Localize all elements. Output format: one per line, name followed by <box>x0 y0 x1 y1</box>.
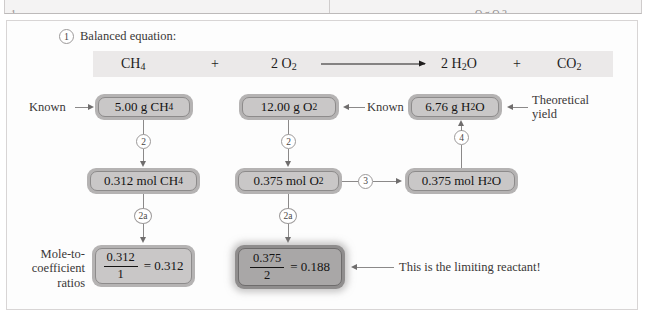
figure-root: 1 O g O 2 1 Balanced equation: CH4 + 2 O… <box>0 0 646 326</box>
connector-step4-top <box>461 126 462 131</box>
arrow-mol-h2o-to-mass-h2o <box>458 120 464 126</box>
equation-plus-1: + <box>211 56 219 72</box>
annotation-theoretical-yield: Theoretical yield <box>532 93 610 122</box>
limiting-reactant-line <box>356 267 394 268</box>
cut-off-table-strip: 1 O g O 2 <box>4 0 642 14</box>
step-1-circle: 1 <box>59 29 74 44</box>
connector-step3-left <box>342 181 359 182</box>
ratio-ch4-numerator: 0.312 <box>104 251 138 264</box>
known-middle-line <box>348 107 365 108</box>
theoretical-yield-line <box>512 107 528 108</box>
known-left-arrowhead <box>88 104 94 110</box>
step-2-circle-middle: 2 <box>281 134 296 149</box>
node-mol-h2o-inner: 0.375 mol H2O <box>408 171 515 191</box>
equation-product-co2: CO2 <box>557 56 581 73</box>
step-1-header: 1 Balanced equation: <box>59 29 176 44</box>
node-mass-ch4-inner: 5.00 g CH4 <box>98 97 190 117</box>
equation-plus-2: + <box>513 56 521 72</box>
table-column-divider <box>329 0 330 14</box>
ratio-ch4-expression: 0.312 1 = 0.312 <box>104 251 184 280</box>
node-mol-ch4: 0.312 mol CH4 <box>87 168 200 194</box>
annotation-known-left: Known <box>29 100 66 114</box>
diagram-panel: 1 Balanced equation: CH4 + 2 O2 2 H2O + … <box>6 20 638 310</box>
arrow-ch4-mass-to-mol <box>140 161 146 167</box>
ratio-o2-denominator: 2 <box>264 269 270 282</box>
ratio-o2-numerator: 0.375 <box>250 252 284 265</box>
node-mass-ch4: 5.00 g CH4 <box>95 94 193 120</box>
annotation-known-middle: Known <box>367 100 404 114</box>
arrow-step3-to-mol-h2o <box>396 178 402 184</box>
ratio-ch4-denominator: 1 <box>117 268 123 281</box>
step-1-label: Balanced equation: <box>80 29 176 44</box>
equation-product-h2o: 2 H2O <box>441 56 477 73</box>
node-ratio-ch4: 0.312 1 = 0.312 <box>92 245 195 287</box>
equation-reactant-o2: 2 O2 <box>271 56 297 73</box>
node-mol-o2: 0.375 mol O2 <box>235 168 342 194</box>
node-mol-o2-inner: 0.375 mol O2 <box>238 171 339 191</box>
known-left-line <box>75 107 89 108</box>
annotation-limiting-reactant: This is the limiting reactant! <box>399 260 541 274</box>
step-3-circle: 3 <box>358 174 373 189</box>
node-mass-o2-inner: 12.00 g O2 <box>242 97 336 117</box>
arrow-o2-mol-to-ratio <box>285 237 291 243</box>
ratio-o2-result: = 0.188 <box>290 259 330 275</box>
node-mass-o2: 12.00 g O2 <box>239 94 339 120</box>
step-2a-circle-middle: 2a <box>279 208 297 224</box>
node-ratio-o2-inner: 0.375 2 = 0.188 <box>238 248 342 286</box>
node-mol-h2o: 0.375 mol H2O <box>405 168 518 194</box>
arrow-o2-mass-to-mol <box>285 161 291 167</box>
table-cut-text-right: O g O 2 <box>475 9 507 14</box>
ratio-o2-expression: 0.375 2 = 0.188 <box>250 252 330 281</box>
node-mass-h2o-inner: 6.76 g H2O <box>411 97 499 117</box>
connector-step3-right <box>373 181 397 182</box>
ratio-ch4-result: = 0.312 <box>144 258 184 274</box>
theoretical-yield-arrowhead <box>507 104 513 110</box>
node-ratio-o2-limiting: 0.375 2 = 0.188 <box>235 245 345 289</box>
node-mass-h2o: 6.76 g H2O <box>408 94 502 120</box>
balanced-equation-band: CH4 + 2 O2 2 H2O + CO2 <box>93 51 613 77</box>
equation-reactant-ch4: CH4 <box>121 56 145 73</box>
table-cut-text-left: 1 <box>11 9 16 14</box>
node-mol-ch4-inner: 0.312 mol CH4 <box>90 171 197 191</box>
known-middle-arrowhead <box>343 104 349 110</box>
ratio-o2-fraction: 0.375 2 <box>250 252 284 281</box>
step-4-circle: 4 <box>454 130 469 145</box>
connector-step4-bottom <box>461 145 462 168</box>
annotation-mole-to-coefficient-ratios: Mole-to-coefficient ratios <box>19 247 85 290</box>
limiting-reactant-arrowhead <box>351 264 357 270</box>
ratio-ch4-fraction: 0.312 1 <box>104 251 138 280</box>
step-2a-circle-left: 2a <box>134 208 152 224</box>
arrow-ch4-mol-to-ratio <box>140 237 146 243</box>
node-ratio-ch4-inner: 0.312 1 = 0.312 <box>95 248 192 284</box>
step-2-circle-left: 2 <box>136 134 151 149</box>
equation-reaction-arrow <box>321 64 425 65</box>
